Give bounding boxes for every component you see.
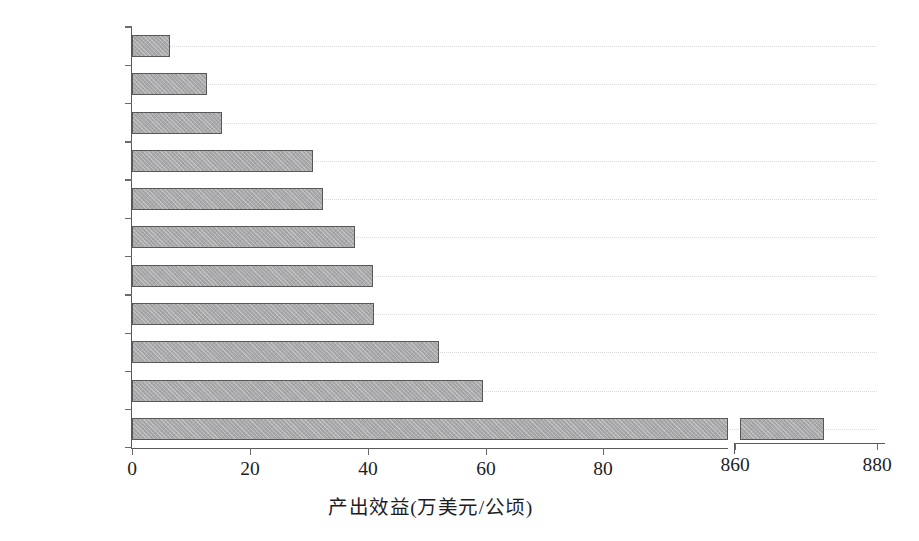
gridline (132, 46, 877, 47)
chart-row: 东帝汶 (132, 142, 877, 180)
x-axis-tick-label-0: 0 (127, 459, 137, 479)
x-axis-tick-60 (486, 448, 487, 455)
x-axis-line-left-segment (132, 448, 728, 449)
x-axis-tick-80 (603, 448, 604, 455)
y-axis-tick (125, 333, 132, 334)
y-axis-tick (125, 371, 132, 372)
y-axis-tick (125, 409, 132, 410)
x-axis-tick-20 (250, 448, 251, 455)
chart-row: 越南 (132, 104, 877, 142)
x-axis-tick-label-80: 80 (593, 459, 613, 479)
bar[interactable] (132, 35, 170, 57)
x-axis-tick-label-60: 60 (476, 459, 496, 479)
bar[interactable] (132, 73, 207, 95)
x-axis-tick-label-860: 860 (720, 455, 749, 475)
x-axis-tick-40 (368, 448, 369, 455)
x-axis-tick-0 (132, 448, 133, 455)
y-axis-tick (125, 103, 132, 104)
chart-row: 文莱 (132, 257, 877, 295)
bar[interactable] (132, 303, 374, 325)
chart-row: 马来西亚 (132, 295, 877, 333)
y-axis-tick (125, 179, 132, 180)
chart-row: 柬埔寨 (132, 27, 877, 65)
y-axis-tick (125, 294, 132, 295)
bar[interactable] (132, 188, 323, 210)
x-axis-title: 产出效益(万美元/公顷) (0, 491, 919, 520)
x-axis-title-text: 产出效益(万美元/公顷) (328, 491, 532, 520)
bar-segment-after-break[interactable] (740, 418, 824, 440)
y-axis-tick (125, 65, 132, 66)
bar-segment-before-break[interactable] (132, 418, 728, 440)
bar[interactable] (132, 226, 355, 248)
bar-chart: 柬埔寨缅甸越南东帝汶老挝印度尼西亚文莱马来西亚泰国菲律宾新加坡 02040608… (0, 0, 919, 541)
bar[interactable] (132, 265, 373, 287)
plot-area: 柬埔寨缅甸越南东帝汶老挝印度尼西亚文莱马来西亚泰国菲律宾新加坡 (132, 27, 877, 448)
chart-row: 新加坡 (132, 410, 877, 448)
y-axis-tick (125, 218, 132, 219)
y-axis-tick (125, 26, 132, 27)
x-axis-tick-label-880: 880 (862, 455, 891, 475)
chart-row: 菲律宾 (132, 371, 877, 409)
x-axis-tick-880 (877, 443, 878, 450)
gridline (132, 84, 877, 85)
bar[interactable] (132, 150, 313, 172)
chart-row: 老挝 (132, 180, 877, 218)
chart-row: 泰国 (132, 333, 877, 371)
chart-row: 印度尼西亚 (132, 218, 877, 256)
bar[interactable] (132, 380, 483, 402)
x-axis-tick-860 (735, 443, 736, 450)
y-axis-tick (125, 256, 132, 257)
y-axis-tick-end (125, 447, 132, 448)
bar[interactable] (132, 341, 439, 363)
x-axis-tick-label-40: 40 (358, 459, 378, 479)
y-axis-tick (125, 141, 132, 142)
x-axis-tick-label-20: 20 (240, 459, 260, 479)
chart-row: 缅甸 (132, 65, 877, 103)
gridline (132, 123, 877, 124)
bar[interactable] (132, 112, 222, 134)
